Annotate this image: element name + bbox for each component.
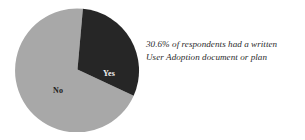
pie-chart-figure: Yes No 30.6% of respondents had a writte… [0,0,305,140]
pie-slice-label-no: No [53,87,63,95]
annotation-line-1: 30.6% of respondents had a written [146,38,298,51]
pie-chart-svg [15,7,140,132]
pie-chart: Yes No [15,7,140,132]
annotation-line-2: User Adoption document or plan [146,51,298,64]
chart-annotation: 30.6% of respondents had a written User … [146,38,298,64]
pie-slice-label-yes: Yes [103,70,115,78]
